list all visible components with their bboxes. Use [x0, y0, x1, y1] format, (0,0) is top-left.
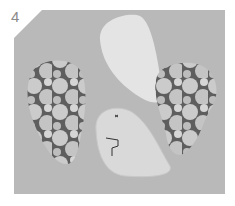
pattern-piece-top	[100, 15, 162, 103]
sewing-pieces-illustration	[0, 0, 235, 206]
fabric-piece-left	[28, 60, 86, 164]
pattern-piece-bottom	[96, 108, 171, 176]
fabric-piece-right	[155, 63, 216, 155]
